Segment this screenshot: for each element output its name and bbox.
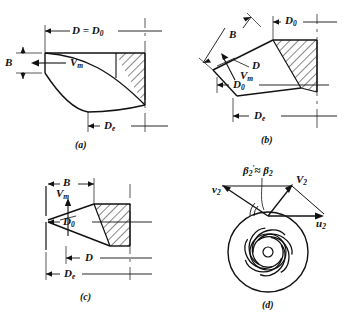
label-u2: u2 [316, 218, 326, 231]
impeller-vanes [241, 225, 296, 279]
panel-c: B Vm D0 D De (c) [20, 158, 200, 316]
dimension-line-D-b [234, 60, 249, 67]
label-De-b: De [254, 110, 265, 123]
label-De-c: De [64, 268, 75, 281]
velocity-arrow-vm [31, 60, 66, 67]
label-V2: V2 [296, 174, 307, 187]
dimension-line-B-c [48, 178, 94, 204]
hatched-region-b [273, 40, 317, 92]
label-Vm-a: Vm [70, 57, 83, 70]
label-B-c: B [63, 177, 70, 188]
hatched-region-a [116, 53, 145, 105]
label-De-a: De [104, 120, 115, 133]
dimension-line-De-c [46, 252, 152, 280]
caption-d: (d) [262, 299, 274, 310]
figure-container: D = D0 B Vm De (a) [0, 0, 354, 316]
label-D0-c: D0 [63, 216, 75, 229]
dimension-line-De-b [233, 98, 337, 122]
dimension-line-D0 [45, 25, 162, 53]
label-D0-top-b: D0 [285, 15, 297, 28]
label-D-mid-b: D [252, 60, 260, 71]
caption-b: (b) [261, 134, 273, 145]
label-B-b: B [229, 29, 236, 40]
label-D0-mid-b: D0 [233, 79, 245, 92]
panel-d: β2′≈ β2 v2 V2 u2 (d) [200, 158, 354, 316]
dimension-line-D-c [66, 246, 152, 264]
label-D-c: D [85, 252, 93, 263]
dimension-line-De [88, 112, 168, 132]
label-beta2-prime-approx-beta2: β2′≈ β2 [243, 165, 273, 178]
hatched-region-c [94, 204, 130, 246]
label-Vm-c: Vm [56, 188, 69, 201]
impeller-front-view [228, 212, 308, 292]
panel-a: D = D0 B Vm De (a) [0, 0, 177, 158]
panel-c-drawing [20, 158, 200, 316]
label-v2: v2 [212, 184, 221, 197]
panel-d-drawing [200, 158, 354, 316]
label-D-equals-D0: D = D0 [72, 25, 103, 38]
panel-b: D0 B D Vm D0 De (b) [177, 0, 354, 158]
velocity-triangle [222, 178, 324, 220]
dimension-line-D0-b [273, 16, 337, 40]
caption-a: (a) [75, 139, 87, 150]
label-B-a: B [5, 57, 12, 68]
caption-c: (c) [80, 291, 91, 302]
